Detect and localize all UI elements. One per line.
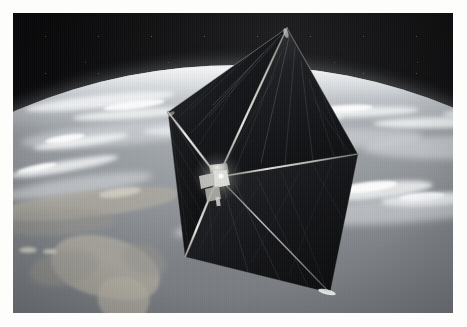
image-frame: Solar sail spacecraft deployed above Ear…: [0, 0, 467, 327]
sail-membrane: [168, 28, 358, 293]
solar-sail: [13, 13, 453, 313]
photo-plate: [13, 13, 453, 313]
bus-specular: [218, 173, 223, 178]
bus-body: [213, 170, 230, 188]
